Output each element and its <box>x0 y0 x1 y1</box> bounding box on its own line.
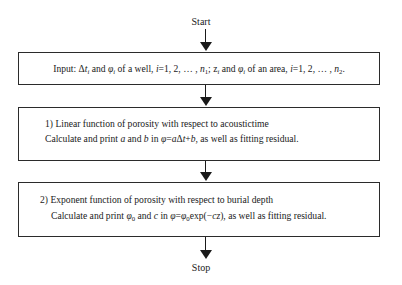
linear-step-title: 1) Linear function of porosity with resp… <box>45 117 269 131</box>
input-step-text: Input: Δti and φi of a well, i=1, 2, … ,… <box>19 62 379 76</box>
arrow-start-to-input <box>205 29 206 43</box>
stop-terminal: Stop <box>0 262 402 274</box>
exponent-step-description: Calculate and print φ0 and c in φ=φ0exp(… <box>51 209 326 223</box>
linear-step-description: Calculate and print a and b in φ=aΔt+b, … <box>45 132 299 146</box>
input-step-box: Input: Δti and φi of a well, i=1, 2, … ,… <box>18 52 380 85</box>
arrowhead-icon <box>200 250 212 259</box>
arrowhead-icon <box>200 42 212 51</box>
linear-step-box: 1) Linear function of porosity with resp… <box>18 107 380 161</box>
exponent-step-title: 2) Exponent function of porosity with re… <box>40 193 273 207</box>
arrowhead-icon <box>200 172 212 181</box>
arrowhead-icon <box>200 97 212 106</box>
arrow-exponent-to-stop <box>205 237 206 251</box>
start-terminal: Start <box>0 16 402 28</box>
exponent-step-box: 2) Exponent function of porosity with re… <box>18 182 380 237</box>
